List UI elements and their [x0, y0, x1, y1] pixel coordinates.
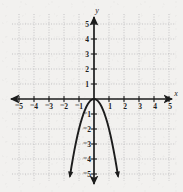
y-tick-label: 4	[85, 35, 89, 44]
x-tick-label: 1	[108, 102, 112, 111]
graph-svg: x y ⁻5 ⁻4 ⁻3 ⁻2 ⁻1 1 2 3 4 5 5 4 3 2 1 ⁻…	[0, 0, 183, 192]
y-tick-label: ⁻2	[83, 125, 91, 134]
y-tick-label: ⁻3	[83, 140, 91, 149]
x-axis-label: x	[173, 89, 178, 98]
x-tick-label: ⁻4	[30, 102, 38, 111]
x-tick-label: ⁻3	[45, 102, 53, 111]
figure-background	[0, 0, 183, 192]
coordinate-plane-figure: x y ⁻5 ⁻4 ⁻3 ⁻2 ⁻1 1 2 3 4 5 5 4 3 2 1 ⁻…	[0, 0, 183, 192]
x-tick-label: 3	[138, 102, 142, 111]
x-tick-label: 5	[168, 102, 172, 111]
y-tick-label: ⁻5	[83, 170, 91, 179]
y-tick-label: ⁻4	[83, 155, 91, 164]
y-tick-label: 5	[85, 20, 89, 29]
x-tick-label: ⁻2	[60, 102, 68, 111]
x-tick-label: ⁻5	[15, 102, 23, 111]
x-tick-label: 4	[153, 102, 157, 111]
y-tick-label: 3	[85, 50, 89, 59]
y-tick-label: 1	[85, 80, 89, 89]
x-tick-label: 2	[123, 102, 127, 111]
y-tick-label: 2	[85, 65, 89, 74]
y-axis-label: y	[94, 6, 99, 15]
x-tick-label: ⁻1	[75, 102, 83, 111]
